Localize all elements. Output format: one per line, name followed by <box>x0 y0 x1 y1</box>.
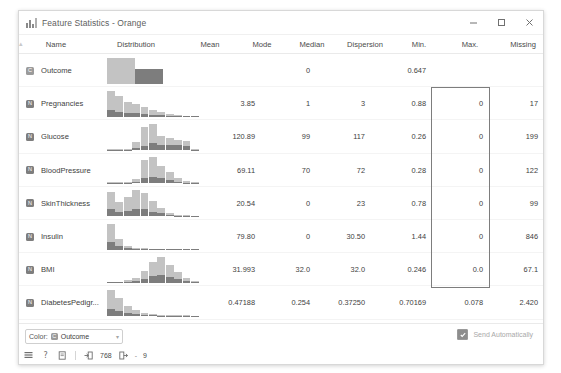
table-row[interactable]: COutcome00.6470 (0 %) <box>19 54 543 87</box>
cell-mean[interactable]: 79.80 <box>201 232 260 241</box>
cell-mean[interactable]: 20.54 <box>201 199 260 208</box>
distribution-bar <box>183 190 191 216</box>
bar-segment-dark <box>141 315 149 316</box>
bar-segment-dark <box>149 212 157 217</box>
cell-median[interactable]: 3 <box>315 99 370 108</box>
report-icon[interactable] <box>23 350 34 361</box>
cell-min[interactable]: 0 <box>431 199 488 208</box>
numeric-variable-icon: N <box>26 166 34 174</box>
cell-mean[interactable]: 3.85 <box>201 99 260 108</box>
close-icon[interactable] <box>515 11 543 34</box>
cell-median[interactable]: 32.0 <box>315 265 370 274</box>
bar-segment-dark <box>132 249 140 250</box>
minimize-icon[interactable] <box>459 11 487 34</box>
maximize-icon[interactable] <box>487 11 515 34</box>
send-automatically-row[interactable]: Send Automatically <box>457 329 533 340</box>
cell-mode[interactable]: 0 <box>260 66 315 75</box>
cell-mean[interactable]: 69.11 <box>201 166 260 175</box>
cell-max[interactable]: 199 <box>488 132 543 141</box>
table-row[interactable]: NInsulin79.80030.501.4408460 (0 %) <box>19 220 543 253</box>
bar-segment-dark <box>166 116 174 117</box>
cell-min[interactable]: 0 <box>431 99 488 108</box>
distribution-bar <box>141 157 149 183</box>
cell-median[interactable]: 23 <box>315 199 370 208</box>
cell-mode[interactable]: 0 <box>260 199 315 208</box>
column-header-missing[interactable]: Missing <box>495 40 551 49</box>
cell-mean[interactable]: 31.993 <box>201 265 260 274</box>
bar-segment-dark <box>157 178 165 183</box>
bar-segment-dark <box>124 113 132 117</box>
column-header-name[interactable]: Name <box>23 40 89 49</box>
distribution-bar <box>166 157 174 183</box>
cell-min[interactable]: 0.0 <box>431 265 488 274</box>
column-header-dispersion[interactable]: Dispersion <box>337 40 393 49</box>
distribution-bar <box>107 224 115 250</box>
cell-max[interactable]: 122 <box>488 166 543 175</box>
cell-dispersion[interactable]: 0.28 <box>370 166 431 175</box>
chevron-down-icon[interactable]: ▾ <box>116 333 119 340</box>
cell-mode[interactable]: 32.0 <box>260 265 315 274</box>
distribution-cell <box>107 290 201 316</box>
cell-mean[interactable]: 120.89 <box>201 132 260 141</box>
distribution-chart <box>107 157 201 183</box>
column-header-min[interactable]: Min. <box>393 40 445 49</box>
distribution-bar <box>183 91 191 117</box>
cell-min[interactable]: 0 <box>431 232 488 241</box>
cell-median[interactable]: 0.37250 <box>315 298 370 307</box>
cell-min[interactable]: 0 <box>431 132 488 141</box>
color-selector[interactable]: Color: C Outcome ▾ <box>25 329 123 344</box>
help-icon[interactable]: ? <box>40 350 51 361</box>
cell-median[interactable]: 30.50 <box>315 232 370 241</box>
categorical-variable-icon: C <box>26 67 34 75</box>
column-header-mean[interactable]: Mean <box>183 40 237 49</box>
bar-segment-dark <box>183 183 191 184</box>
distribution-bar <box>166 190 174 216</box>
cell-max[interactable]: 67.1 <box>488 265 543 274</box>
distribution-bar <box>149 124 157 150</box>
table-row[interactable]: NBloodPressure69.1170720.2801220 (0 %) <box>19 154 543 187</box>
table-row[interactable]: NSkinThickness20.540230.780990 (0 %) <box>19 187 543 220</box>
column-header-distribution[interactable]: Distribution <box>89 40 183 49</box>
distribution-cell <box>107 157 201 183</box>
cell-dispersion[interactable]: 1.44 <box>370 232 431 241</box>
distribution-bar <box>174 124 182 150</box>
bar-segment-dark <box>132 113 140 116</box>
cell-dispersion[interactable]: 0.647 <box>370 66 431 75</box>
column-header-max[interactable]: Max. <box>445 40 495 49</box>
cell-median[interactable]: 72 <box>315 166 370 175</box>
cell-max[interactable]: 846 <box>488 232 543 241</box>
cell-dispersion[interactable]: 0.246 <box>370 265 431 274</box>
table-row[interactable]: NBMI31.99332.032.00.2460.067.10 (0 %) <box>19 253 543 286</box>
bar-segment-dark <box>174 145 182 150</box>
table-row[interactable]: NPregnancies3.85130.880170 (0 %) <box>19 87 543 120</box>
cell-dispersion[interactable]: 0.26 <box>370 132 431 141</box>
column-header-median[interactable]: Median <box>287 40 337 49</box>
cell-mode[interactable]: 1 <box>260 99 315 108</box>
cell-min[interactable]: 0.078 <box>431 298 488 307</box>
table-row[interactable]: NGlucose120.89991170.2601990 (0 %) <box>19 120 543 153</box>
cell-median[interactable]: 117 <box>315 132 370 141</box>
feature-statistics-window: Feature Statistics - Orange ▴ Name Distr… <box>18 10 544 365</box>
cell-max[interactable]: 99 <box>488 199 543 208</box>
distribution-bar <box>157 157 165 183</box>
cell-mode[interactable]: 99 <box>260 132 315 141</box>
cell-mode[interactable]: 70 <box>260 166 315 175</box>
cell-dispersion[interactable]: 0.78 <box>370 199 431 208</box>
bar-segment-light <box>149 201 157 211</box>
column-header-mode[interactable]: Mode <box>237 40 287 49</box>
table-row[interactable]: NDiabetesPedigr...0.471880.2540.372500.7… <box>19 286 543 319</box>
copy-icon[interactable] <box>57 350 68 361</box>
cell-mode[interactable]: 0.254 <box>260 298 315 307</box>
bar-segment-dark <box>124 282 132 283</box>
cell-dispersion[interactable]: 0.70169 <box>370 298 431 307</box>
send-automatically-checkbox[interactable] <box>457 329 468 340</box>
cell-mode[interactable]: 0 <box>260 232 315 241</box>
cell-min[interactable]: 0 <box>431 166 488 175</box>
distribution-bar <box>141 190 149 216</box>
cell-mean[interactable]: 0.47188 <box>201 298 260 307</box>
cell-max[interactable]: 17 <box>488 99 543 108</box>
cell-dispersion[interactable]: 0.88 <box>370 99 431 108</box>
cell-max[interactable]: 2.420 <box>488 298 543 307</box>
bar-segment-light <box>115 239 123 246</box>
bar-segment-dark <box>107 309 115 316</box>
